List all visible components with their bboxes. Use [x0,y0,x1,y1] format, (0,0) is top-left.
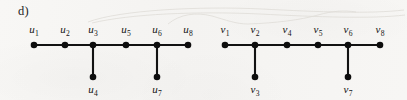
artifact-4 [248,11,356,24]
artifact-2 [92,13,405,23]
vertex-label-v8: v8 [375,23,384,38]
graph-vertex-u4 [90,74,97,81]
graph-vertex-v2 [252,42,259,49]
vertex-label-u8: u8 [183,23,193,38]
graph-vertex-u8 [185,42,192,49]
graph-vertex-u6 [154,42,161,49]
vertex-label-v2: v2 [250,23,259,38]
vertex-label-v1: v1 [220,23,229,38]
graph-vertex-u3 [90,42,97,49]
vertex-label-u6: u6 [152,23,162,38]
edge-layer [34,45,380,77]
vertex-label-v6: v6 [343,23,352,38]
graph-vertex-v7 [345,74,352,81]
figure-container: d) u1u2u3u5u6u8u4u7v1v2v4v5v6v8v3v7 [0,0,407,100]
graph-vertex-v4 [284,42,291,49]
vertex-label-u7: u7 [152,83,162,98]
vertex-label-layer: u1u2u3u5u6u8u4u7v1v2v4v5v6v8v3v7 [29,23,385,98]
graph-vertex-v1 [222,42,229,49]
scan-artifact-layer [88,8,405,24]
graph-canvas: u1u2u3u5u6u8u4u7v1v2v4v5v6v8v3v7 [0,0,407,100]
vertex-label-v7: v7 [343,83,352,98]
vertex-label-v3: v3 [250,83,259,98]
graph-vertex-v6 [345,42,352,49]
vertex-layer [31,42,384,81]
vertex-label-u3: u3 [88,23,98,38]
vertex-label-u1: u1 [29,23,39,38]
artifact-1 [88,8,404,22]
vertex-label-u2: u2 [60,23,70,38]
vertex-label-u4: u4 [88,83,98,98]
vertex-label-u5: u5 [121,23,131,38]
graph-vertex-u7 [154,74,161,81]
graph-vertex-u2 [62,42,69,49]
vertex-label-v5: v5 [313,23,322,38]
artifact-3 [168,14,248,24]
vertex-label-v4: v4 [282,23,291,38]
graph-vertex-u1 [31,42,38,49]
graph-vertex-u5 [123,42,130,49]
graph-vertex-v8 [377,42,384,49]
graph-vertex-v3 [252,74,259,81]
graph-vertex-v5 [315,42,322,49]
